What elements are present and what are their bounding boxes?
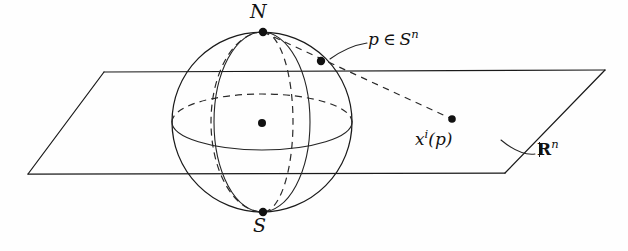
point-on-sphere-label: p∈Sn — [368, 29, 419, 48]
plane-left-edge — [28, 72, 104, 174]
projected-point-dot — [448, 115, 456, 123]
equator-back-arc — [172, 94, 352, 122]
projected-point-label: xi(p) — [415, 129, 452, 148]
sphere-dimension-exponent: n — [411, 27, 418, 41]
stereographic-projection-figure: N S p∈Sn xi(p) Rn — [0, 0, 628, 251]
plane-top-edge — [104, 70, 605, 72]
plane-dimension-exponent: n — [551, 137, 558, 151]
plane-bottom-edge — [28, 173, 505, 174]
meridian-back-right-arc — [263, 32, 293, 212]
real-numbers-symbol: R — [537, 141, 551, 158]
point-p-dot — [317, 57, 325, 65]
meridian-back-left-arc — [211, 32, 263, 212]
coordinate-function-symbol: x — [415, 129, 425, 149]
sphere-center-dot — [258, 119, 266, 127]
coordinate-argument: (p) — [428, 129, 452, 149]
point-p-symbol: p — [368, 29, 379, 49]
north-pole-label: N — [250, 2, 267, 21]
leader-line-point-sphere — [330, 43, 367, 59]
south-pole-label: S — [253, 216, 266, 235]
element-of-symbol: ∈ — [383, 29, 396, 49]
figure-canvas — [0, 0, 628, 251]
plane-parallelogram — [28, 70, 605, 174]
plane-label: Rn — [537, 139, 559, 158]
north-pole-dot — [259, 28, 267, 36]
sphere-set-symbol: S — [399, 29, 411, 49]
